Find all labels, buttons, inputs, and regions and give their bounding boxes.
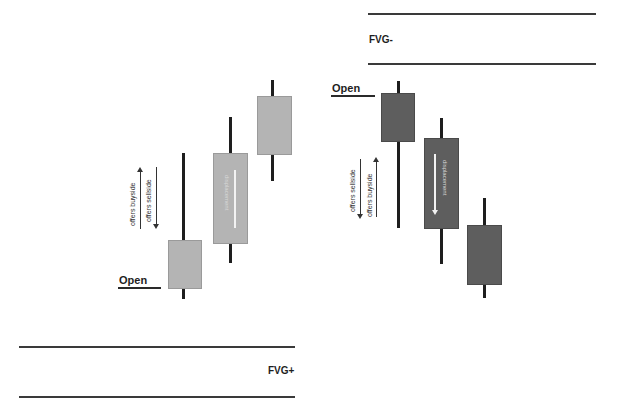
bearish-open-label: Open [332, 82, 360, 94]
buyside-arrow-shaft [376, 162, 377, 217]
bearish-displacement-text: displacement [442, 160, 448, 195]
sellside-arrow-shaft [360, 159, 361, 214]
fvg-plus-label: FVG+ [268, 365, 294, 376]
arrow-up-icon [137, 167, 143, 172]
arrow-down-icon [153, 224, 159, 229]
bullish-offers-buyside-text: offers buyside [129, 183, 136, 226]
buyside-arrow-shaft [140, 172, 141, 229]
fvg-minus-top-line [368, 13, 596, 15]
bullish-candle-3 [257, 96, 292, 155]
bullish-open-label: Open [119, 274, 147, 286]
bullish-open-line [118, 287, 161, 289]
arrow-up-icon [373, 157, 379, 162]
bullish-displacement-arrow [234, 170, 236, 228]
sellside-arrow-shaft [156, 167, 157, 224]
bearish-open-line [331, 95, 375, 97]
bullish-displacement-text: displacement [224, 175, 230, 210]
bullish-offers-sellside-text: offers sellside [145, 179, 152, 222]
bearish-offers-buyside-text: offers buyside [366, 174, 373, 217]
bullish-candle-2 [213, 153, 248, 244]
bearish-displacement-arrow [434, 154, 436, 212]
arrow-down-icon [432, 210, 438, 215]
fvg-minus-bottom-line [368, 63, 596, 65]
bearish-candle-1 [381, 93, 415, 142]
fvg-minus-label: FVG- [369, 34, 393, 45]
bearish-offers-sellside-text: offers sellside [349, 169, 356, 212]
fvg-plus-top-line [19, 346, 295, 348]
bearish-candle-3 [467, 225, 502, 285]
fvg-plus-bottom-line [19, 396, 295, 398]
bullish-candle-1 [168, 240, 202, 289]
arrow-down-icon [357, 214, 363, 219]
